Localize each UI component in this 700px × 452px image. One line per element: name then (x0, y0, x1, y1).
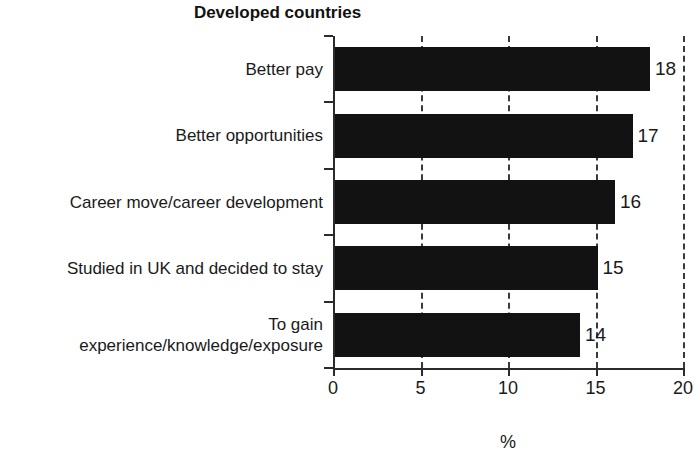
y-tick-3 (324, 234, 333, 236)
bar-value-label: 15 (603, 246, 624, 290)
y-tick-1 (324, 101, 333, 103)
y-tick-0 (324, 35, 333, 37)
category-label: Career move/career development (0, 192, 323, 213)
x-tick-20 (683, 368, 685, 376)
bar (335, 180, 615, 224)
x-tick-label-5: 5 (391, 378, 451, 399)
bar-value-label: 17 (638, 114, 659, 158)
bar (335, 114, 633, 158)
bar (335, 313, 580, 357)
category-label: Better opportunities (0, 125, 323, 146)
x-tick-label-15: 15 (566, 378, 626, 399)
chart-title: Developed countries (0, 3, 555, 23)
bar (335, 47, 650, 91)
y-tick-4 (324, 301, 333, 303)
category-label: To gain experience/knowledge/exposure (0, 314, 323, 356)
plot-area: 1817161514 05101520 % (333, 36, 683, 368)
bar-value-label: 16 (620, 180, 641, 224)
x-tick-0 (333, 368, 335, 376)
bar-value-label: 14 (585, 313, 606, 357)
x-tick-10 (508, 368, 510, 376)
x-tick-label-10: 10 (478, 378, 538, 399)
x-axis-title: % (333, 432, 683, 452)
category-label: Better pay (0, 59, 323, 80)
x-tick-5 (421, 368, 423, 376)
bar (335, 246, 598, 290)
x-tick-label-0: 0 (303, 378, 363, 399)
category-label: Studied in UK and decided to stay (0, 258, 323, 279)
y-tick-2 (324, 168, 333, 170)
gridline-20 (683, 36, 685, 368)
x-tick-15 (596, 368, 598, 376)
bar-value-label: 18 (655, 47, 676, 91)
y-tick-5 (324, 367, 333, 369)
x-tick-label-20: 20 (653, 378, 700, 399)
